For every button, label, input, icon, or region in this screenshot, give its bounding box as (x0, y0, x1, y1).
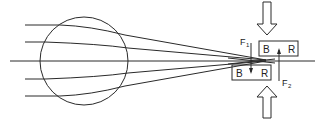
upper-block-label-b: B (263, 44, 270, 55)
top-push-arrow (257, 2, 277, 35)
force1-subscript: 1 (246, 42, 250, 48)
diagram-canvas: B R B R F 1 F 2 (0, 0, 327, 122)
bottom-push-arrow (257, 86, 277, 118)
force1-arrowhead (249, 68, 253, 74)
force2-subscript: 2 (288, 83, 292, 89)
lower-block-label-r: R (261, 68, 268, 79)
force2-arrowhead (277, 48, 281, 54)
upper-block-label-r: R (288, 44, 295, 55)
lower-block-label-b: B (236, 68, 243, 79)
ray-top-inner (25, 42, 266, 60)
